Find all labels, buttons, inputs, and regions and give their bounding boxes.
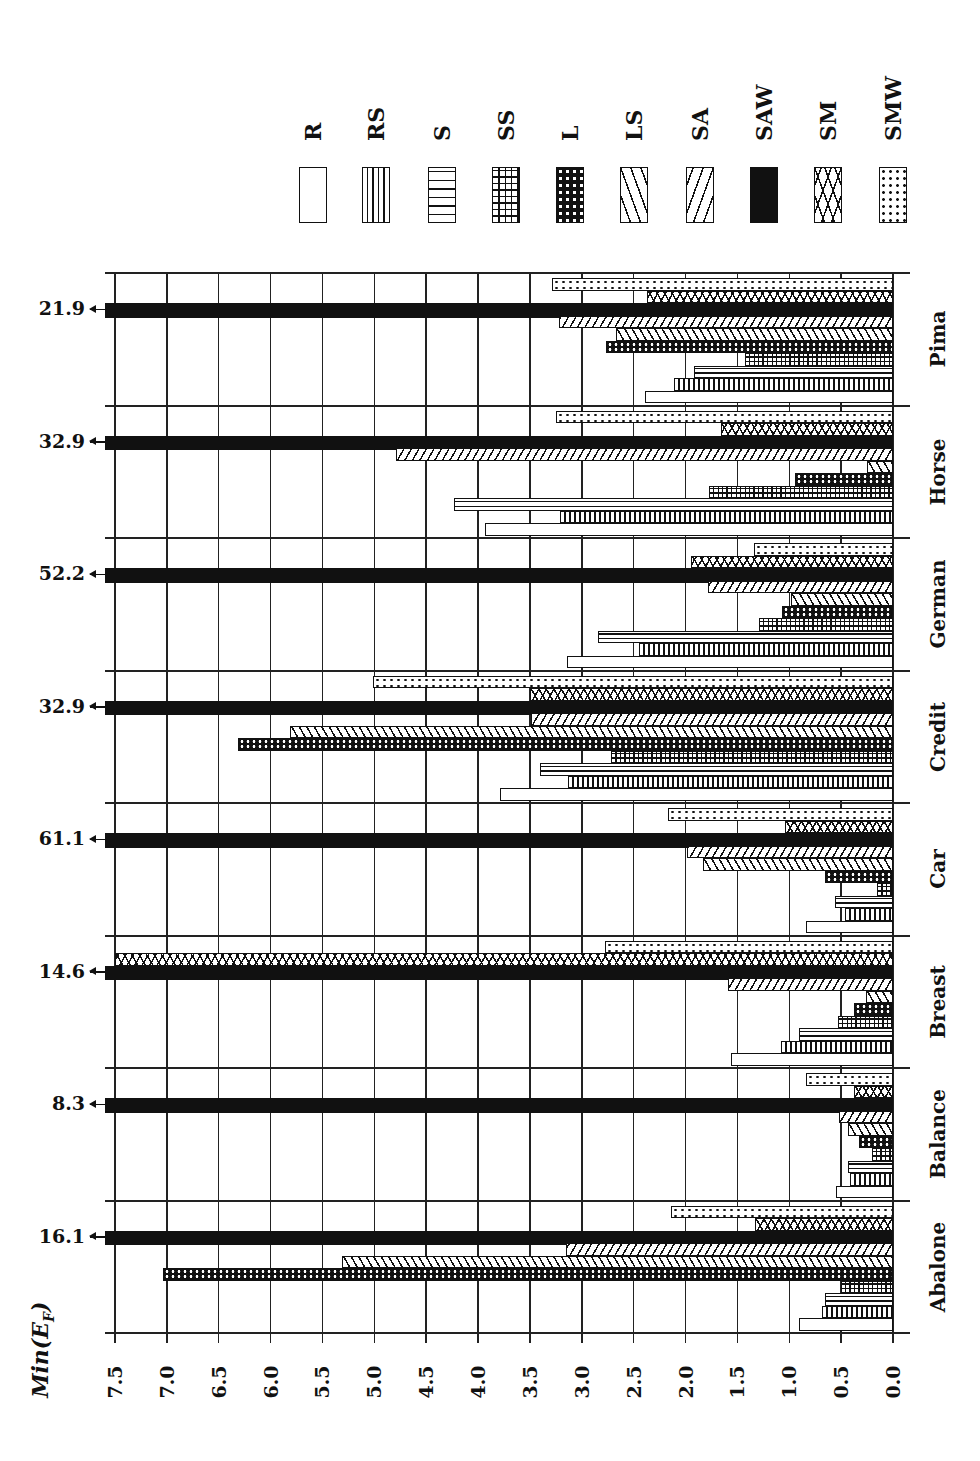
bar-credit-ls bbox=[290, 726, 893, 739]
bar-horse-l bbox=[795, 473, 893, 486]
bar-horse-sa bbox=[396, 448, 893, 461]
bar-credit-smw bbox=[373, 676, 893, 689]
bar-breast-ss bbox=[838, 1016, 893, 1029]
bar-pima-sm bbox=[647, 291, 893, 304]
tick-label: 0.5 bbox=[830, 1357, 852, 1407]
bar-breast-ls bbox=[866, 991, 893, 1004]
bar-abalone-l bbox=[163, 1268, 893, 1281]
bar-credit-ss bbox=[611, 751, 893, 764]
bar-abalone-smw bbox=[671, 1206, 893, 1219]
axis-title-main: Min(E bbox=[27, 1322, 53, 1398]
category-label-car: Car bbox=[926, 819, 950, 919]
bar-breast-rs bbox=[781, 1041, 893, 1054]
tick-label: 5.5 bbox=[311, 1357, 333, 1407]
category-label-german: German bbox=[926, 554, 950, 654]
bar-balance-ss bbox=[872, 1148, 893, 1161]
bar-breast-l bbox=[854, 1003, 893, 1016]
bar-horse-rs bbox=[560, 511, 893, 524]
arrow-left-icon bbox=[90, 309, 105, 311]
bar-german-rs bbox=[639, 643, 893, 656]
gridline bbox=[374, 273, 376, 1343]
bar-chart: RRSSSSLLSSASAWSMSMW 7.57.06.56.05.55.04.… bbox=[0, 0, 980, 1461]
bar-abalone-rs bbox=[822, 1306, 893, 1319]
bar-pima-l bbox=[606, 341, 893, 354]
group-separator bbox=[105, 935, 910, 937]
group-separator bbox=[105, 670, 910, 672]
bar-breast-s bbox=[799, 1028, 893, 1041]
legend-label-rs: RS bbox=[363, 71, 389, 141]
legend-swatch-sm bbox=[814, 167, 842, 223]
bar-car-sm bbox=[785, 821, 893, 834]
bar-breast-r bbox=[731, 1053, 893, 1066]
legend-label-ls: LS bbox=[621, 71, 647, 141]
overflow-value-label: 16.1 bbox=[5, 1225, 85, 1247]
arrow-left-icon bbox=[90, 839, 105, 841]
bar-breast-smw bbox=[605, 941, 893, 954]
bar-german-ls bbox=[791, 593, 893, 606]
legend-label-saw: SAW bbox=[751, 71, 777, 141]
gridline bbox=[633, 273, 635, 1343]
gridline bbox=[270, 273, 272, 1343]
tick-label: 1.0 bbox=[778, 1357, 800, 1407]
bar-car-rs bbox=[845, 908, 893, 921]
overflow-value-label: 52.2 bbox=[5, 562, 85, 584]
bar-german-sa bbox=[708, 581, 893, 594]
tick-label: 5.0 bbox=[363, 1357, 385, 1407]
bar-car-ls bbox=[703, 858, 893, 871]
legend-swatch-ls bbox=[620, 167, 648, 223]
bar-abalone-s bbox=[825, 1293, 893, 1306]
arrow-left-icon bbox=[90, 441, 105, 443]
axis-title: Min(EF) bbox=[27, 1290, 56, 1410]
group-separator bbox=[105, 1200, 910, 1202]
bar-balance-rs bbox=[850, 1173, 893, 1186]
bar-horse-ss bbox=[709, 486, 893, 499]
bar-german-ss bbox=[759, 618, 893, 631]
bar-abalone-sm bbox=[755, 1218, 893, 1231]
group-separator bbox=[105, 802, 910, 804]
tick-label: 2.0 bbox=[675, 1357, 697, 1407]
tick-label: 4.5 bbox=[415, 1357, 437, 1407]
legend-swatch-sa bbox=[686, 167, 714, 223]
bar-horse-ls bbox=[867, 461, 893, 474]
category-label-abalone: Abalone bbox=[926, 1217, 950, 1317]
bar-credit-rs bbox=[568, 776, 893, 789]
category-label-balance: Balance bbox=[926, 1084, 950, 1184]
bar-breast-sm bbox=[115, 953, 893, 966]
bar-pima-smw bbox=[552, 278, 893, 291]
overflow-value-label: 32.9 bbox=[5, 695, 85, 717]
bar-pima-rs bbox=[674, 378, 893, 391]
legend-swatch-ss bbox=[492, 167, 520, 223]
arrow-left-icon bbox=[90, 706, 105, 708]
gridline bbox=[529, 273, 531, 1343]
overflow-value-label: 32.9 bbox=[5, 430, 85, 452]
legend-swatch-rs bbox=[362, 167, 390, 223]
legend-label-s: S bbox=[429, 71, 455, 141]
bar-pima-ss bbox=[745, 353, 893, 366]
bar-horse-smw bbox=[556, 411, 893, 424]
gridline bbox=[114, 273, 116, 1343]
category-label-breast: Breast bbox=[926, 952, 950, 1052]
arrow-left-icon bbox=[90, 1236, 105, 1238]
bar-pima-r bbox=[645, 391, 893, 404]
arrow-left-icon bbox=[90, 1104, 105, 1106]
bar-balance-sa bbox=[839, 1111, 893, 1124]
bar-car-r bbox=[806, 921, 893, 934]
bar-credit-sm bbox=[530, 688, 893, 701]
legend-label-sm: SM bbox=[815, 71, 841, 141]
tick-label: 7.0 bbox=[156, 1357, 178, 1407]
bar-car-ss bbox=[877, 883, 893, 896]
legend-label-ss: SS bbox=[493, 71, 519, 141]
category-label-horse: Horse bbox=[926, 422, 950, 522]
tick-label: 3.0 bbox=[571, 1357, 593, 1407]
group-separator bbox=[105, 537, 910, 539]
bar-german-r bbox=[567, 656, 893, 669]
arrow-left-icon bbox=[90, 574, 105, 576]
bar-abalone-ls bbox=[342, 1256, 893, 1269]
bar-pima-s bbox=[694, 366, 893, 379]
bar-german-smw bbox=[754, 543, 893, 556]
x-axis-line bbox=[105, 1332, 910, 1334]
group-separator bbox=[105, 405, 910, 407]
legend-label-smw: SMW bbox=[880, 71, 906, 141]
gridline bbox=[581, 273, 583, 1343]
bar-breast-sa bbox=[728, 978, 893, 991]
